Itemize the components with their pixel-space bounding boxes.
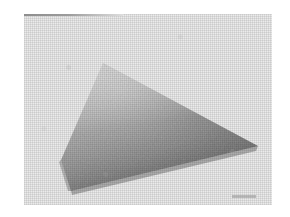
print-smudge [232,195,256,198]
subject-area [24,14,272,205]
flat-plate-in-perspective [24,14,272,205]
figure-canvas [0,0,290,217]
photographic-print [24,14,272,205]
print-top-edge-line [24,14,123,16]
